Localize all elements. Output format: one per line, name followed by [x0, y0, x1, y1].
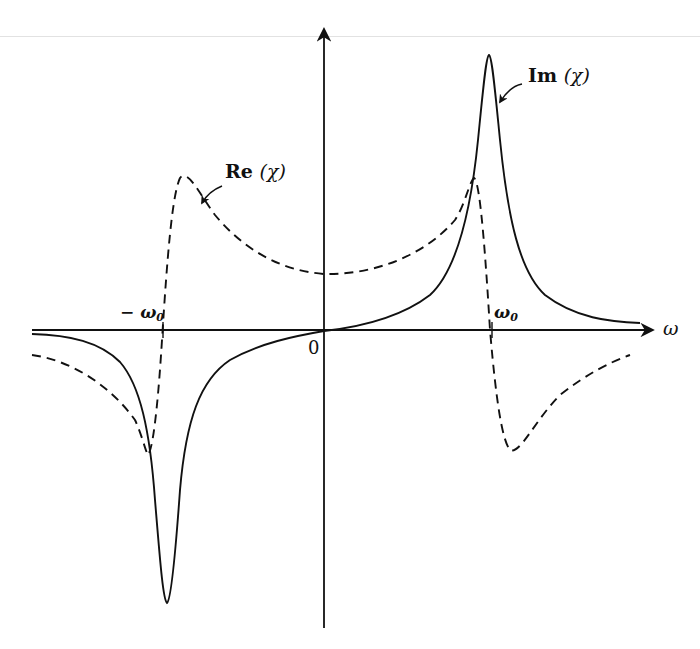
- im-chi-symbol: (χ): [564, 64, 590, 86]
- re-chi-label: Re (χ): [225, 160, 286, 182]
- susceptibility-diagram: Im (χ) Re (χ) − ω0 ω0 0 ω: [0, 0, 700, 649]
- im-label-text: Im: [528, 64, 557, 86]
- omega0-label: ω0: [494, 302, 518, 324]
- re-chi-symbol: (χ): [260, 160, 286, 182]
- re-label-text: Re: [225, 160, 253, 182]
- omega-axis-label: ω: [663, 317, 679, 339]
- omega-text: ω: [494, 302, 510, 322]
- origin-label: 0: [308, 337, 319, 358]
- re-label-arrow: [202, 186, 222, 203]
- minus-omega-subscript: 0: [156, 311, 164, 324]
- omega-subscript: 0: [510, 311, 518, 324]
- im-chi-label: Im (χ): [528, 64, 590, 86]
- im-chi-curve: [32, 55, 640, 603]
- minus-omega-text: − ω: [120, 302, 156, 322]
- diagram-canvas: [0, 0, 700, 649]
- im-label-arrow: [500, 84, 522, 102]
- minus-omega0-label: − ω0: [120, 302, 164, 324]
